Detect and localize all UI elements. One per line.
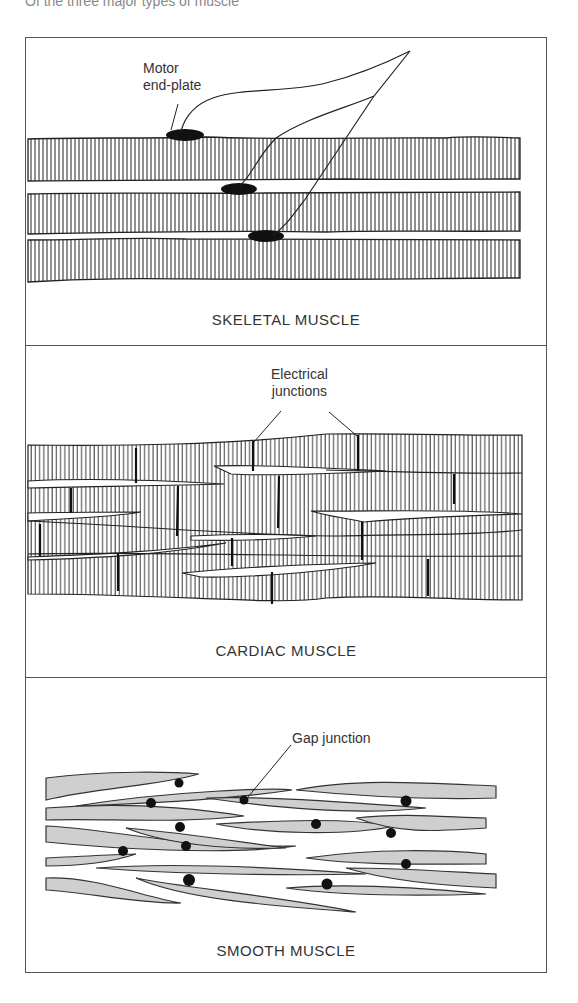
panel-title-skeletal: SKELETAL MUSCLE [26, 311, 546, 328]
skeletal-muscle-illustration [26, 38, 546, 345]
figure-caption-fragment: Of the three major types of muscle [25, 0, 239, 9]
label-electrical-junctions: Electrical junctions [271, 366, 328, 400]
panel-smooth-muscle: Gap junction SMOOTH MUSCLE [26, 677, 546, 974]
panel-title-cardiac: CARDIAC MUSCLE [26, 642, 546, 659]
label-motor-end-plate: Motor end-plate [143, 60, 201, 94]
motor-end-plate-icon [166, 129, 204, 141]
panel-skeletal-muscle: Motor end-plate SKELETAL MUSCLE [26, 38, 546, 345]
panel-cardiac-muscle: Electrical junctions CARDIAC MUSCLE [26, 345, 546, 677]
motor-end-plate-icon [248, 230, 284, 242]
motor-end-plate-icon [221, 183, 257, 195]
panel-title-smooth: SMOOTH MUSCLE [26, 942, 546, 959]
figure-frame: Motor end-plate SKELETAL MUSCLE [25, 37, 547, 973]
label-gap-junction: Gap junction [292, 730, 371, 747]
smooth-muscle-illustration [26, 678, 546, 975]
